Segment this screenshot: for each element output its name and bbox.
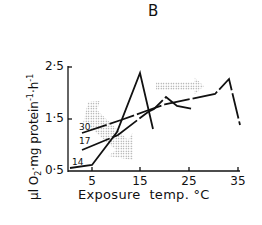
x-axis-label-text: Exposure temp. — [78, 187, 194, 202]
figure: B — [0, 0, 262, 225]
y-label-part: ·h — [27, 82, 41, 93]
x-axis-label: Exposure temp. °C — [78, 187, 210, 202]
y-label-part: ·mg protein — [27, 101, 41, 171]
y-axis-label: µl O2·mg protein-1·h-1 — [26, 74, 43, 200]
x-tick-25: 25 — [177, 174, 201, 188]
y-label-part: µl O — [27, 176, 41, 200]
series-label-30: 30 — [79, 122, 90, 132]
y-label-sup: -1 — [26, 93, 35, 101]
y-label-sup: -1 — [26, 74, 35, 82]
x-tick-35: 35 — [226, 174, 250, 188]
stippled-right-arrow — [156, 77, 204, 95]
y-tick-2-5: 2·5 — [36, 59, 64, 73]
series-label-14: 14 — [72, 157, 83, 167]
x-tick-5: 5 — [80, 174, 104, 188]
x-tick-15: 15 — [128, 174, 152, 188]
series-label-17: 17 — [79, 136, 90, 146]
y-label-sub: 2 — [34, 171, 43, 176]
x-axis-label-unit: °C — [194, 187, 210, 202]
